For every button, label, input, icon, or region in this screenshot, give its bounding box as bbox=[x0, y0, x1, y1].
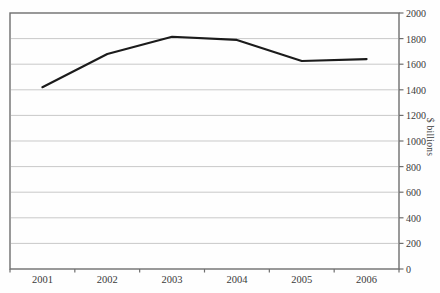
line-chart-figure: 2000180016001400120010008006004002000200… bbox=[0, 0, 440, 293]
x-tick-label: 2005 bbox=[291, 274, 312, 285]
x-tick-label: 2001 bbox=[32, 274, 53, 285]
y-tick-label: 1600 bbox=[406, 59, 426, 70]
gridlines bbox=[11, 39, 398, 244]
plot-canvas: 2000180016001400120010008006004002000200… bbox=[0, 0, 440, 293]
y-tick-label: 2000 bbox=[406, 8, 426, 19]
y-axis-title: $ billions bbox=[425, 118, 435, 157]
y-tick-label: 1800 bbox=[406, 34, 426, 45]
x-tick-label: 2006 bbox=[356, 274, 377, 285]
y-tick-label: 200 bbox=[406, 238, 421, 249]
x-tick-label: 2003 bbox=[162, 274, 183, 285]
y-tick-label: 600 bbox=[406, 187, 421, 198]
x-tick-label: 2002 bbox=[97, 274, 118, 285]
y-axis: 2000180016001400120010008006004002000 bbox=[399, 8, 426, 275]
data-line bbox=[42, 37, 366, 87]
x-tick-label: 2004 bbox=[226, 274, 248, 285]
y-tick-label: 0 bbox=[406, 264, 411, 275]
x-axis: 200120022003200420052006 bbox=[10, 269, 399, 285]
y-tick-label: 1400 bbox=[406, 85, 426, 96]
y-tick-label: 800 bbox=[406, 162, 421, 173]
y-tick-label: 1200 bbox=[406, 110, 426, 121]
y-tick-label: 400 bbox=[406, 213, 421, 224]
y-tick-label: 1000 bbox=[406, 136, 426, 147]
